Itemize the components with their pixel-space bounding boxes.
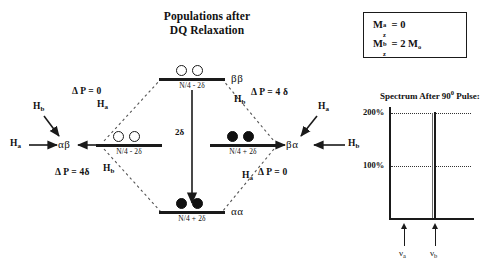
nucleus-subscript: b xyxy=(356,142,360,150)
frequency-marker-a xyxy=(404,228,405,246)
nucleus-subscript: b xyxy=(242,98,246,106)
nucleus-subscript: b xyxy=(111,167,115,175)
level-state-top: ββ xyxy=(231,72,243,84)
nucleus-symbol: H xyxy=(242,170,250,180)
spectrum-title-suffix: Pulse: xyxy=(454,91,480,101)
transition-label-upper-left-deltap: Δ P = 0 xyxy=(72,86,101,96)
mz-a-equals: = xyxy=(392,19,398,30)
right-diagonal-arrow xyxy=(301,116,317,136)
population-circles-left xyxy=(113,131,140,142)
transition-label-lower-left-deltap: Δ P = 4δ xyxy=(55,167,90,177)
frequency-label-a: νa xyxy=(399,248,406,259)
spectrum-title: Spectrum After 900 Pulse: xyxy=(380,89,480,101)
spectrum-title-text: Spectrum After 90 xyxy=(380,91,451,101)
frequency-marker-b xyxy=(435,228,436,246)
nucleus-subscript: a xyxy=(326,105,330,113)
side-label-right-horizontal: Hb xyxy=(348,138,360,150)
population-circles-top xyxy=(176,65,203,76)
population-circle-open xyxy=(113,131,124,142)
mz-b-equals: = xyxy=(392,38,398,49)
nucleus-symbol: H xyxy=(103,163,111,173)
gridline-100 xyxy=(391,166,471,167)
magnetization-box: Maz = 0 Mbz = 2 Mo xyxy=(363,12,467,58)
nucleus-subscript: b xyxy=(41,105,45,113)
mz-a-superscript: a xyxy=(383,21,386,28)
nucleus-symbol: H xyxy=(318,101,326,111)
magnetization-row-a: Maz = 0 xyxy=(373,19,405,30)
transition-label-upper-left-nucleus: Ha xyxy=(97,99,108,111)
nucleus-symbol: H xyxy=(33,101,41,111)
nu-a-subscript: a xyxy=(403,252,406,259)
mz-b-value: 2 M xyxy=(400,38,418,49)
nucleus-symbol: H xyxy=(10,138,18,148)
level-population-right: N/4 + 2δ xyxy=(210,147,276,156)
dashed-edge-left-bottom xyxy=(104,149,161,212)
side-label-right-diagonal: Ha xyxy=(318,101,329,113)
population-circle-filled xyxy=(192,198,203,209)
transition-label-upper-right-deltap: Δ P = 4 δ xyxy=(251,87,288,97)
population-circle-filled xyxy=(227,131,238,142)
nucleus-subscript: a xyxy=(250,174,254,182)
population-circle-open xyxy=(129,131,140,142)
side-label-left-diagonal: Hb xyxy=(33,101,45,113)
nu-b-subscript: b xyxy=(434,252,437,259)
dq-relaxation-arrow-label: 2δ xyxy=(175,127,184,137)
population-circle-open xyxy=(192,65,203,76)
mz-b-superscript: b xyxy=(383,40,387,47)
mz-b-symbol: M xyxy=(373,38,383,49)
page-title: Populations after DQ Relaxation xyxy=(112,9,302,37)
gridline-200 xyxy=(391,113,471,114)
level-state-bottom: αα xyxy=(231,205,244,217)
left-diagonal-arrow xyxy=(44,116,59,136)
level-population-top: N/4 - 2δ xyxy=(159,81,225,90)
transition-label-lower-right-deltap: Δ P = 0 xyxy=(258,167,287,177)
mz-a-symbol: M xyxy=(373,19,383,30)
spectrum-y-axis xyxy=(389,107,391,219)
nucleus-subscript: a xyxy=(105,103,109,111)
population-circles-bottom xyxy=(176,198,203,209)
population-circle-open xyxy=(176,65,187,76)
gridline-label-100: 100% xyxy=(363,160,384,170)
magnetization-row-b: Mbz = 2 Mo xyxy=(373,38,421,50)
transition-label-lower-left-nucleus: Hb xyxy=(103,163,115,175)
level-population-left: N/4 - 2δ xyxy=(96,147,162,156)
mz-a-subscript: z xyxy=(383,31,386,38)
spectrum-peak-b xyxy=(434,112,436,218)
gridline-label-200: 200% xyxy=(363,107,384,117)
title-line-1: Populations after xyxy=(112,9,302,23)
population-circle-filled xyxy=(243,131,254,142)
side-label-left-horizontal: Ha xyxy=(10,138,21,150)
nucleus-subscript: a xyxy=(18,142,22,150)
level-state-left: αβ xyxy=(58,138,71,150)
spectrum-x-axis xyxy=(389,218,474,220)
frequency-label-b: νb xyxy=(430,248,437,259)
population-circle-filled xyxy=(176,198,187,209)
population-circles-right xyxy=(227,131,254,142)
level-population-bottom: N/4 + 2δ xyxy=(159,214,225,223)
transition-label-upper-right-nucleus: Hb xyxy=(234,94,246,106)
title-line-2: DQ Relaxation xyxy=(112,23,302,37)
mz-b-value-subscript: o xyxy=(418,43,421,50)
mz-b-subscript: z xyxy=(383,50,386,57)
nucleus-symbol: H xyxy=(97,99,105,109)
spectrum-peak-b-shoulder xyxy=(432,113,433,218)
nucleus-symbol: H xyxy=(348,138,356,148)
transition-label-lower-right-nucleus: Ha xyxy=(242,170,253,182)
nucleus-symbol: H xyxy=(234,94,242,104)
mz-a-value: 0 xyxy=(400,19,405,30)
level-state-right: βα xyxy=(286,138,299,150)
